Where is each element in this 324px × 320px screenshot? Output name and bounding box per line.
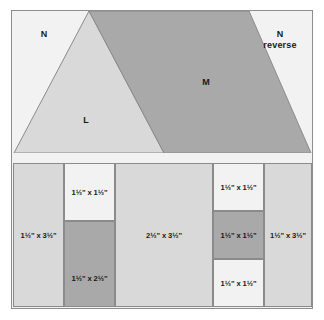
- cut-cell-label-c2-r1: 1½" x 1½": [72, 188, 108, 197]
- piece-label-m: M: [194, 77, 218, 88]
- cut-cell-c4-r3: 1½" x 1½": [213, 259, 264, 307]
- cut-cell-c5-r1: 1½" x 3½": [264, 163, 312, 307]
- cut-cell-label-c3-r1: 2½" x 3½": [146, 231, 182, 240]
- diagram-page: N L M N reverse 1½" x 3½" 1½" x 1½" 1½" …: [0, 0, 324, 320]
- n-reverse-line1: N: [277, 29, 284, 39]
- cut-cell-label-c2-r2: 1½" x 2½": [72, 274, 108, 283]
- cut-cell-c4-r1: 1½" x 1½": [213, 163, 264, 211]
- piece-label-n-left: N: [32, 29, 56, 40]
- n-reverse-line2: reverse: [263, 40, 296, 50]
- diagram-frame: N L M N reverse 1½" x 3½" 1½" x 1½" 1½" …: [11, 10, 313, 309]
- piece-label-n-reverse: N reverse: [255, 29, 305, 51]
- cut-cell-c2-r1: 1½" x 1½": [64, 163, 115, 221]
- upper-pieced-unit: N L M N reverse: [12, 11, 312, 153]
- cut-cell-c3-r1: 2½" x 3½": [115, 163, 213, 307]
- cut-cell-label-c4-r2: 1½" x 1½": [221, 231, 257, 240]
- cutting-chart: 1½" x 3½" 1½" x 1½" 1½" x 2½" 2½" x 3½" …: [12, 153, 312, 308]
- cut-cell-label-c4-r1: 1½" x 1½": [221, 183, 257, 192]
- cut-cell-label-c1-r1: 1½" x 3½": [21, 231, 57, 240]
- piece-label-l: L: [74, 115, 98, 126]
- cut-cell-label-c5-r1: 1½" x 3½": [270, 231, 306, 240]
- cut-cell-label-c4-r3: 1½" x 1½": [221, 279, 257, 288]
- cut-cell-c1-r1: 1½" x 3½": [13, 163, 64, 307]
- cut-cell-c2-r2: 1½" x 2½": [64, 221, 115, 307]
- cut-cell-c4-r2: 1½" x 1½": [213, 211, 264, 259]
